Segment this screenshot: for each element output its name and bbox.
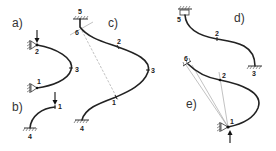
node-label: 5 [177, 16, 181, 23]
node-label: 2 [222, 72, 226, 79]
node-label: 6 [184, 55, 188, 62]
panel-b-label: b) [12, 100, 23, 114]
node-label: 4 [80, 125, 84, 132]
node-label: 1 [112, 99, 116, 106]
fixed-support-icon [178, 6, 192, 15]
pinned-support-icon [217, 122, 228, 132]
rod-curve [37, 45, 72, 88]
node-label: 2 [117, 38, 121, 45]
node-label: 2 [215, 30, 219, 37]
fixed-support-icon [23, 128, 37, 131]
rod-diagram: a) 2 3 1 b) [0, 0, 276, 151]
panel-a: a) 2 3 1 [12, 16, 79, 93]
arrow-down-icon [53, 92, 58, 105]
node-label: 2 [35, 48, 39, 55]
pinned-support-icon [27, 83, 37, 93]
panel-c: c) 5 6 2 3 1 4 [70, 8, 155, 132]
arrow-up-icon [228, 130, 233, 143]
node-label: 1 [58, 103, 62, 110]
fixed-support-icon [247, 66, 262, 69]
node-label: 3 [75, 66, 79, 73]
node-label: 4 [28, 133, 32, 140]
node-label: 3 [252, 70, 256, 77]
panel-b: b) 1 4 [12, 92, 62, 140]
panel-e-label: e) [186, 97, 197, 111]
node-label: 3 [151, 67, 155, 74]
node-label: 6 [75, 29, 79, 36]
guide-line [80, 27, 118, 100]
node-label: 1 [230, 118, 234, 125]
node-label: 1 [37, 78, 41, 85]
panel-d-label: d) [234, 11, 245, 25]
panel-c-label: c) [108, 16, 118, 30]
fixed-support-icon [74, 120, 89, 123]
node-label: 5 [78, 8, 82, 15]
panel-a-label: a) [12, 16, 23, 30]
rod-curve [30, 107, 55, 128]
arrow-down-icon [35, 30, 40, 43]
